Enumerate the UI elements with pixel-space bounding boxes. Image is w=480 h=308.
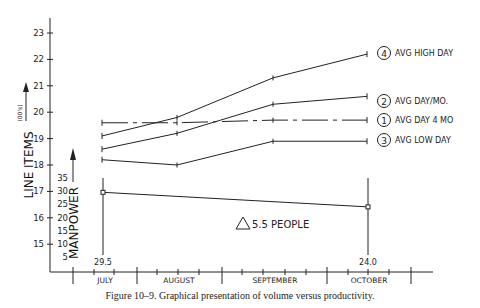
manpower-line: [103, 192, 368, 207]
legend-label: AVG DAY/MO.: [395, 97, 448, 106]
manpower-axis-title: MANPOWER: [67, 187, 81, 259]
y-tick-label: 23: [33, 28, 44, 38]
series-line: [102, 120, 367, 123]
legend-label: AVG DAY 4 MO: [395, 116, 453, 125]
x-tick-label: AUGUST: [163, 276, 195, 285]
line-chart: 151617181920212223 5101520253035 JULYAUG…: [0, 0, 480, 308]
x-axis-ticks: JULYAUGUSTSEPTEMBEROCTOBER: [73, 267, 411, 285]
y-axis-title: LINE ITEMS: [22, 131, 36, 198]
delta-annotation: 5.5 PEOPLE: [236, 217, 309, 230]
x-tick-label: JULY: [96, 276, 113, 285]
manpower-marker: [101, 190, 105, 194]
legend-label: AVG HIGH DAY: [395, 49, 453, 58]
arrow-up-icon: [23, 82, 29, 92]
y-tick-label: 15: [33, 239, 44, 249]
legend-number: 3: [381, 136, 387, 146]
arrow-up-icon: [70, 148, 76, 160]
figure-caption: Figure 10–9. Graphical presentation of v…: [0, 290, 480, 301]
legend-label: AVG LOW DAY: [395, 136, 451, 145]
y-axis-units: (00's): [16, 104, 23, 121]
legend: 4AVG HIGH DAY2AVG DAY/MO.1AVG DAY 4 MO3A…: [378, 47, 454, 147]
y-tick-label: 16: [33, 213, 44, 223]
legend-number: 2: [381, 97, 387, 107]
manpower-marker: [366, 205, 370, 209]
x-tick-label: SEPTEMBER: [253, 276, 298, 285]
series-lines: [102, 51, 367, 167]
y-axis-title-group: LINE ITEMS (00's): [16, 82, 36, 199]
y-tick-label: 21: [33, 81, 44, 91]
triangle-delta-icon: [236, 217, 250, 229]
y-tick-label: 22: [33, 54, 44, 64]
y-tick-label: 20: [33, 107, 44, 117]
manpower-series: 29.524.0: [94, 178, 377, 267]
series-line: [102, 54, 367, 136]
axes: [50, 18, 433, 272]
series-line: [102, 141, 367, 165]
legend-number: 4: [381, 49, 387, 59]
x-tick-label: OCTOBER: [351, 276, 388, 285]
manpower-value-label: 24.0: [359, 258, 377, 267]
legend-number: 1: [381, 116, 387, 126]
manpower-value-label: 29.5: [94, 258, 112, 267]
manpower-tick-label: 35: [57, 173, 68, 183]
annotation-text: 5.5 PEOPLE: [252, 219, 309, 230]
manpower-title-group: MANPOWER: [67, 148, 81, 259]
